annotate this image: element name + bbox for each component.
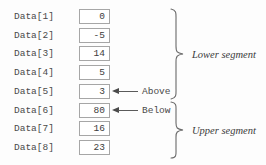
array-cell-value: -5 <box>79 28 110 43</box>
array-index-label: Data[1] <box>14 8 74 26</box>
segment-label-upper: Upper segment <box>192 126 256 137</box>
pointer-annotation-above: Above <box>110 83 171 101</box>
array-cell-value: 80 <box>79 103 110 118</box>
pointer-annotation-below: Below <box>110 102 171 120</box>
array-index-label: Data[8] <box>14 139 74 157</box>
array-index-label: Data[2] <box>14 27 74 45</box>
array-index-label: Data[5] <box>14 83 74 101</box>
segment-label-lower: Lower segment <box>192 50 256 61</box>
array-cell-value: 16 <box>79 121 110 136</box>
array-index-label: Data[4] <box>14 64 74 82</box>
left-arrow-icon <box>112 106 138 115</box>
left-arrow-icon <box>112 87 138 96</box>
array-index-label: Data[6] <box>14 102 74 120</box>
array-cell-value: 3 <box>79 84 110 99</box>
brace-upper-segment <box>168 101 190 159</box>
array-index-label: Data[7] <box>14 120 74 138</box>
pointer-label: Below <box>142 105 171 116</box>
array-index-label: Data[3] <box>14 45 74 63</box>
array-segments-diagram: Data[1] 0 Data[2] -5 Data[3] 14 Data[4] … <box>0 0 266 165</box>
array-cell-value: 23 <box>79 140 110 155</box>
array-cell-value: 14 <box>79 46 110 61</box>
brace-lower-segment <box>168 8 190 100</box>
array-cell-value: 5 <box>79 65 110 80</box>
array-cell-value: 0 <box>79 9 110 24</box>
pointer-label: Above <box>142 86 171 97</box>
